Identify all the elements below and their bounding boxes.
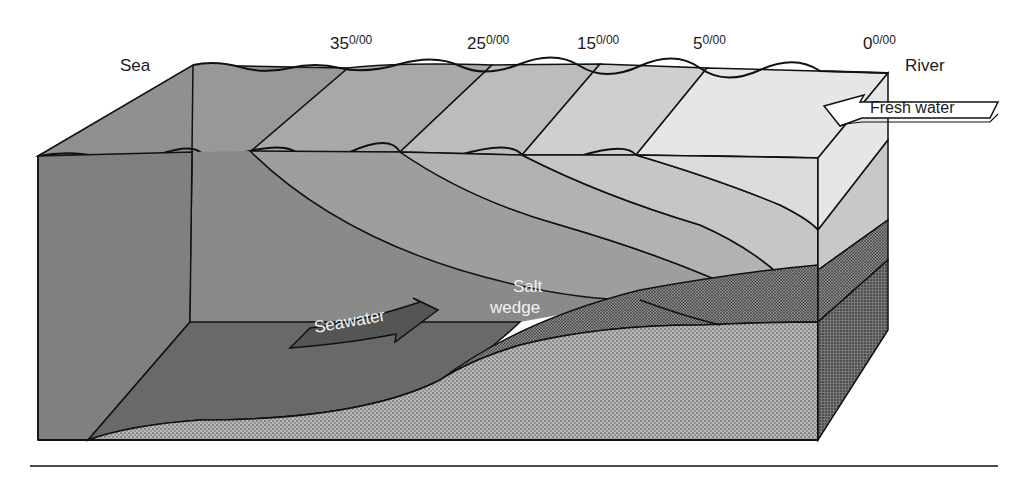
salinity-label-35: 350/00 <box>330 33 372 54</box>
river-label: River <box>905 56 945 76</box>
salinity-label-25: 250/00 <box>467 33 509 54</box>
salinity-label-15: 150/00 <box>577 33 619 54</box>
top-surface <box>38 57 888 162</box>
salt-wedge-label-line2: wedge <box>490 298 540 318</box>
sea-label: Sea <box>120 56 150 76</box>
estuary-block-illustration <box>0 0 1030 477</box>
salt-wedge-label-line1: Salt <box>513 277 542 297</box>
salinity-label-5: 50/00 <box>693 33 726 54</box>
salinity-label-0: 00/00 <box>863 33 896 54</box>
fresh-water-label: Fresh water <box>870 99 954 117</box>
estuary-diagram: Sea River 350/00 250/00 150/00 50/00 00/… <box>0 0 1030 477</box>
